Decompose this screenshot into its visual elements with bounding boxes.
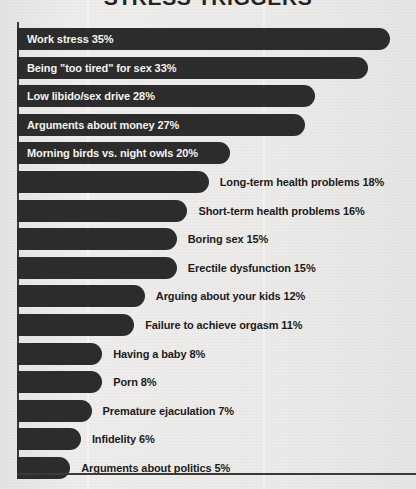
stress-triggers-bar-chart: STRESS TRIGGERS Work stress 35%Being "to… (0, 0, 416, 489)
bar (17, 457, 70, 479)
bar-label: Porn 8% (113, 371, 156, 393)
bar (17, 371, 102, 393)
bar (17, 257, 177, 279)
bar-label: Having a baby 8% (113, 343, 205, 365)
bar (17, 428, 81, 450)
bar-label: Failure to achieve orgasm 11% (145, 314, 302, 336)
bar-label: Work stress 35% (27, 28, 113, 50)
bar (17, 343, 102, 365)
plot-area: Work stress 35%Being "too tired" for sex… (0, 22, 416, 477)
bar-label: Short-term health problems 16% (198, 200, 364, 222)
bar-label: Long-term health problems 18% (220, 171, 385, 193)
bar-label: Arguing about your kids 12% (156, 285, 306, 307)
bar-label: Low libido/sex drive 28% (27, 85, 155, 107)
bar (17, 314, 134, 336)
x-axis-line (17, 473, 416, 475)
bar-label: Infidelity 6% (92, 428, 155, 450)
bar-label: Morning birds vs. night owls 20% (27, 142, 198, 164)
chart-title: STRESS TRIGGERS (0, 0, 416, 10)
bar (17, 200, 187, 222)
bar (17, 285, 145, 307)
bar-label: Arguments about money 27% (27, 114, 179, 136)
bar-label: Erectile dysfunction 15% (188, 257, 316, 279)
bar (17, 400, 92, 422)
bar-label: Arguments about politics 5% (81, 457, 230, 479)
bar-label: Being "too tired" for sex 33% (27, 57, 176, 79)
bar (17, 228, 177, 250)
bar-label: Boring sex 15% (188, 228, 269, 250)
bar-label: Premature ejaculation 7% (103, 400, 235, 422)
bar (17, 171, 209, 193)
